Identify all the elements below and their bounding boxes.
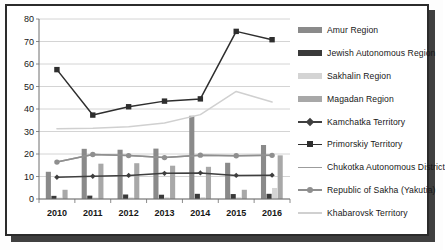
bar [261,145,266,199]
y-tick-label: 60 [24,59,34,69]
legend-item[interactable]: Magadan Region [298,87,444,110]
legend-item[interactable]: Khabarovsk Territory [298,201,444,224]
bar [123,195,128,200]
line-marker-square [198,96,203,101]
y-tick-label: 50 [24,82,34,92]
line-marker-diamond [126,173,131,178]
line-marker-circle [54,159,59,164]
legend-label: Primorskiy Territory [327,139,402,149]
legend-item[interactable]: Jewish Autonomous Region [298,42,444,65]
legend-line-marker [306,117,314,125]
x-tick-label: 2014 [190,208,210,218]
legend-swatch-bar [298,96,322,102]
line-marker-diamond [162,171,167,176]
legend-label: Jewish Autonomous Region [327,48,435,58]
line-marker-diamond [269,172,274,177]
x-tick-label: 2010 [47,208,67,218]
legend-line-marker [307,141,313,147]
legend-line-segment [298,212,322,214]
x-tick-label: 2012 [119,208,139,218]
line-marker-square [269,37,274,42]
y-tick-label: 30 [24,127,34,137]
legend-swatch-line [298,138,322,150]
line-marker-square [54,67,59,72]
y-tick-label: 10 [24,172,34,182]
line-marker-square [234,29,239,34]
bar [62,190,67,199]
legend-line-segment [298,167,322,169]
bar [267,194,272,199]
bar [189,116,194,199]
line-marker-diamond [90,174,95,179]
x-tick-label: 2016 [262,208,282,218]
legend-line-sample [298,139,322,149]
line-marker-square [162,98,167,103]
line-series [54,29,275,118]
bar [170,166,175,199]
legend-label: Magadan Region [327,94,394,104]
line-series [54,170,275,180]
line-marker-circle [126,153,131,158]
legend-label: Sakhalin Region [327,71,391,81]
legend-item[interactable]: Kamchatka Territory [298,110,444,133]
legend-item[interactable]: Republic of Sakha (Yakutia) [298,179,444,202]
bar [46,172,51,199]
bar [242,190,247,199]
line-marker-square [126,104,131,109]
legend-swatch-bar [298,73,322,79]
y-tick-label: 40 [24,104,34,114]
legend-line-sample [298,117,322,127]
legend-item[interactable]: Primorskiy Territory [298,133,444,156]
legend-label: Amur Region [327,25,378,35]
bar [118,150,123,199]
line-marker-circle [162,155,167,160]
line-marker-circle [198,152,203,157]
bar [98,164,103,199]
line-marker-diamond [234,173,239,178]
legend-swatch-line [298,207,322,219]
legend-line-marker [307,187,313,193]
bar [206,167,211,199]
legend-swatch-line [298,116,322,128]
bar-series [62,155,282,199]
bar [272,188,277,199]
x-axis-labels: 2010201120122013201420152016 [39,199,290,218]
legend-swatch-bar [298,27,322,33]
legend-label: Chukotka Autonomous District [327,162,445,172]
legend-line-sample [298,162,322,172]
legend-label: Kamchatka Territory [327,117,405,127]
x-tick-label: 2011 [83,208,103,218]
y-tick-label: 80 [24,14,34,24]
legend-swatch-line [298,161,322,173]
chart-legend: Amur RegionJewish Autonomous RegionSakha… [298,19,444,224]
bar [134,163,139,199]
legend-line-sample [298,185,322,195]
bar [159,195,164,199]
bar [195,194,200,199]
bar [225,163,230,199]
bar [231,194,236,199]
line-marker-circle [269,153,274,158]
y-tick-label: 20 [24,149,34,159]
line-series-group [54,29,275,180]
bar [278,155,283,199]
legend-label: Republic of Sakha (Yakutia) [327,185,436,195]
x-tick-label: 2013 [154,208,174,218]
x-tick-label: 2015 [226,208,246,218]
line-marker-diamond [54,174,59,179]
y-tick-label: 0 [29,194,34,204]
combo-chart: 01020304050607080 2010201120122013201420… [17,14,292,226]
y-tick-label: 70 [24,37,34,47]
line-marker-circle [90,152,95,157]
legend-item[interactable]: Chukotka Autonomous District [298,156,444,179]
line-marker-diamond [198,170,203,175]
legend-item[interactable]: Sakhalin Region [298,65,444,88]
legend-label: Khabarovsk Territory [327,208,408,218]
line-marker-circle [234,153,239,158]
chart-frame: 01020304050607080 2010201120122013201420… [5,4,429,236]
legend-item[interactable]: Amur Region [298,19,444,42]
line-marker-square [90,112,95,117]
plot-wrapper: 01020304050607080 2010201120122013201420… [7,6,427,234]
legend-line-sample [298,208,322,218]
